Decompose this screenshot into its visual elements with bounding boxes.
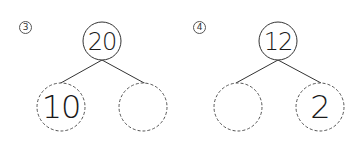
whole-value: 20 (88, 28, 117, 56)
number-bond-problem-4: 4 12 2 (180, 0, 360, 150)
part-right-value[interactable]: 2 (310, 88, 329, 126)
whole-value: 12 (264, 28, 293, 56)
number-bond-diagram (180, 0, 360, 150)
problem-number-badge: 3 (19, 21, 32, 34)
problem-number-badge: 4 (193, 21, 206, 34)
part-left-value[interactable]: 10 (42, 88, 81, 126)
part-left-blank[interactable] (218, 87, 258, 127)
part-right-blank[interactable] (123, 87, 163, 127)
number-bond-problem-3: 3 20 10 (0, 0, 180, 150)
